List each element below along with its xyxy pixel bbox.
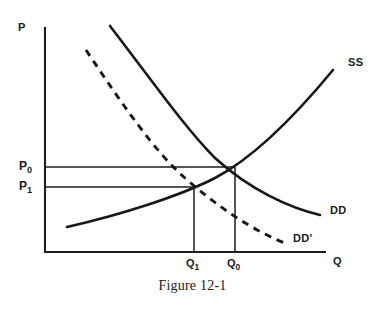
price-label-p0-base: P (19, 159, 27, 173)
price-label-p1-subscript: 1 (27, 185, 32, 195)
quantity-label-q1-subscript: 1 (195, 262, 200, 272)
quantity-label-q1-base: Q (186, 257, 195, 269)
price-label-p0-subscript: 0 (27, 165, 32, 175)
quantity-label-q0-subscript: 0 (236, 262, 241, 272)
price-label-p1-base: P (19, 179, 27, 193)
y-axis-label: P (18, 22, 25, 33)
demand-curve-shifted-label: DD' (293, 233, 312, 244)
supply-curve (67, 70, 333, 227)
demand-curve-initial-label: DD (330, 205, 347, 216)
price-label-p0: P0 (19, 160, 32, 176)
quantity-label-q1: Q1 (186, 258, 199, 272)
x-axis-label: Q (333, 256, 342, 267)
figure-caption: Figure 12-1 (0, 278, 385, 294)
figure-container: P Q P0 P1 Q1 Q0 SS DD DD' Figure 12-1 (0, 0, 385, 309)
quantity-label-q0: Q0 (227, 258, 240, 272)
supply-curve-label: SS (348, 57, 363, 68)
quantity-label-q0-base: Q (227, 257, 236, 269)
price-label-p1: P1 (19, 180, 32, 196)
